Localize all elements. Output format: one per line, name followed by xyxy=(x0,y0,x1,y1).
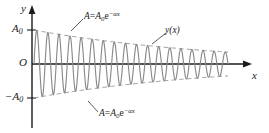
leader-line-lower-equation xyxy=(88,101,98,112)
leader-line-upper-equation xyxy=(71,19,83,31)
amplitude-positive-label: A0 xyxy=(12,23,23,36)
y-axis-label: y xyxy=(21,3,26,14)
x-axis-label: x xyxy=(252,70,257,81)
amplitude-negative-label: −A0 xyxy=(5,91,23,104)
origin-label: O xyxy=(19,57,27,68)
amplitude-negative-subscript: 0 xyxy=(19,95,23,104)
y-axis-arrowhead xyxy=(29,5,36,14)
amplitude-positive-symbol: A xyxy=(12,22,19,34)
upper-eq-exponent: −αx xyxy=(109,10,120,17)
lower-eq-exponent: −αx xyxy=(124,107,135,114)
upper-envelope-equation-label: A=A0e−αx xyxy=(84,11,120,23)
leader-line-curve-label xyxy=(152,33,166,44)
curve-label: y(x) xyxy=(165,26,180,36)
damped-oscillation-figure: y x O A0 −A0 A=A0e−αx A=A0e−αx y(x) xyxy=(0,0,269,133)
amplitude-negative-symbol: −A xyxy=(5,90,19,102)
upper-envelope-curve xyxy=(34,30,228,52)
x-axis-arrowhead xyxy=(243,61,252,68)
amplitude-positive-subscript: 0 xyxy=(19,27,23,36)
leader-lines-group xyxy=(71,19,166,112)
lower-envelope-equation-label: A=A0e−αx xyxy=(99,108,135,120)
